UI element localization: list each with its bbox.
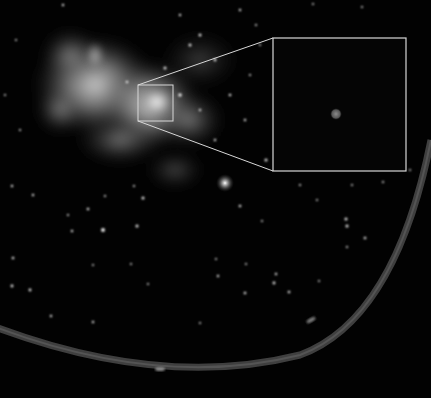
- image-canvas: [0, 0, 431, 398]
- inset-panel: [273, 38, 406, 171]
- bright-star: [216, 174, 234, 192]
- inset-point-source: [330, 108, 342, 120]
- astronomical-image: Monochrome astronomical image of a brigh…: [0, 0, 431, 398]
- ring-bright-spot: [155, 367, 165, 371]
